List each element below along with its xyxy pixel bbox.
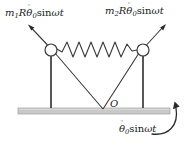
arrow-up-right (147, 24, 167, 45)
left-force-time-symbol: t (60, 7, 64, 18)
base-excitation-theta-group: ¨θ (119, 124, 125, 134)
right-force-label: m2R¨θ0sinωt (105, 6, 164, 18)
coil-spring (57, 42, 137, 57)
origin-label: O (110, 99, 118, 109)
left-pendulum-arm (55, 53, 103, 109)
left-force-theta-group: ¨θ (26, 8, 32, 18)
base-bar-group (18, 108, 170, 114)
right-force-theta-symbol: θ (126, 5, 132, 16)
arrow-up-left-shaft (31, 27, 48, 45)
left-force-trig: sin (37, 7, 52, 18)
right-force-radius-symbol: R (119, 5, 127, 16)
base-excitation-time-symbol: t (152, 123, 156, 134)
mechanics-figure: m1R¨θ0sinωt m2R¨θ0sinωt O ¨θ0sinωt (0, 0, 189, 144)
circle-node-right (137, 44, 149, 56)
left-force-omega-symbol: ω (51, 7, 59, 18)
left-force-radius-symbol: R (19, 7, 27, 18)
right-force-theta-group: ¨θ (126, 6, 132, 16)
right-force-trig: sin (137, 5, 152, 16)
diagram-canvas (0, 0, 189, 144)
circle-node-left (45, 44, 57, 56)
base-excitation-label: ¨θ0sinωt (119, 124, 156, 136)
left-force-theta-symbol: θ (26, 7, 32, 18)
left-force-label: m1R¨θ0sinωt (5, 8, 64, 20)
arrow-up-left (28, 25, 48, 46)
base-excitation-theta-symbol: θ (119, 123, 125, 134)
base-excitation-trig: sin (129, 123, 144, 134)
right-force-omega-symbol: ω (151, 5, 159, 16)
right-force-time-symbol: t (160, 5, 164, 16)
arrow-up-right-shaft (147, 27, 164, 46)
right-pendulum-arm (103, 53, 139, 109)
